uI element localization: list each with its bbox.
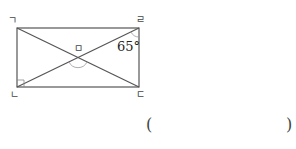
answer-close-paren: ): [286, 117, 292, 133]
vertex-label-bottom-right: ㄷ: [136, 90, 145, 100]
answer-blank[interactable]: [160, 118, 280, 134]
vertex-label-bottom-left: ㄴ: [10, 90, 19, 100]
angle-arc-65: [131, 32, 139, 37]
intersection-label: ㅁ: [74, 44, 83, 54]
angle-value-label: 65°: [117, 40, 140, 53]
vertex-label-top-left: ㄱ: [8, 16, 17, 26]
answer-open-paren: (: [146, 117, 152, 133]
angle-arc-unknown: [69, 62, 87, 68]
vertex-label-top-right: ㄹ: [136, 15, 145, 25]
